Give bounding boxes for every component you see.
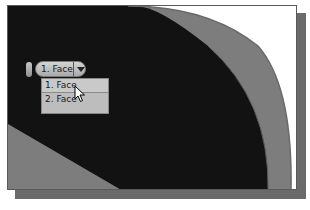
triangle-down-icon[interactable]: [77, 67, 85, 72]
graphics-window: 1. Face 1. Face 2. Face: [7, 5, 297, 190]
select-other-button[interactable]: 1. Face: [35, 61, 86, 77]
drag-handle[interactable]: [26, 62, 32, 77]
current-selection-label: 1. Face: [36, 64, 73, 74]
divider: [73, 62, 74, 76]
arrow-pointer-icon: [74, 85, 86, 103]
